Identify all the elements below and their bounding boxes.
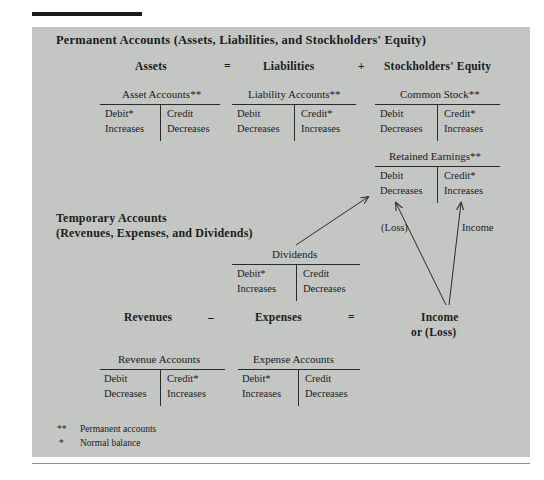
income-or-loss-line1: Income <box>421 311 459 323</box>
retained-earnings-credit-effect: Increases <box>444 185 483 196</box>
dividends-credit-label: Credit <box>303 268 329 279</box>
footnote-mark-normal-balance: * <box>59 438 64 448</box>
asset-accounts-debit-label: Debit* <box>105 108 134 119</box>
revenue-accounts-title: Revenue Accounts <box>118 353 200 365</box>
equation-operator-minus: – <box>208 311 214 323</box>
bottom-rule-decoration <box>32 463 530 464</box>
equation-operator-equals-top: = <box>224 60 231 72</box>
figure-page: Permanent Accounts (Assets, Liabilities,… <box>0 0 544 480</box>
asset-accounts-divider <box>160 105 161 141</box>
asset-accounts-title: Asset Accounts** <box>122 88 201 100</box>
retained-earnings-divider <box>437 167 438 203</box>
retained-earnings-debit-effect: Decreases <box>380 185 423 196</box>
flow-label-income: Income <box>462 222 494 233</box>
equation-term-stockholders-equity: Stockholders' Equity <box>384 60 491 72</box>
temporary-accounts-heading-line2: (Revenues, Expenses, and Dividends) <box>56 226 253 241</box>
common-stock-credit-label: Credit* <box>444 108 476 119</box>
expense-accounts-credit-effect: Decreases <box>305 388 348 399</box>
equation-term-assets: Assets <box>135 60 167 72</box>
expense-accounts-divider <box>298 370 299 406</box>
permanent-accounts-heading: Permanent Accounts (Assets, Liabilities,… <box>56 33 426 48</box>
retained-earnings-title: Retained Earnings** <box>389 150 481 162</box>
footnote-mark-permanent: ** <box>57 424 67 434</box>
liability-accounts-debit-effect: Decreases <box>237 123 280 134</box>
expense-accounts-title: Expense Accounts <box>253 353 334 365</box>
dividends-title: Dividends <box>272 248 317 260</box>
expense-accounts-debit-label: Debit* <box>242 373 271 384</box>
expense-accounts-credit-label: Credit <box>305 373 331 384</box>
retained-earnings-credit-label: Credit* <box>444 170 476 181</box>
liability-accounts-credit-effect: Increases <box>301 123 340 134</box>
revenue-accounts-top-rule <box>100 369 225 370</box>
liability-accounts-title: Liability Accounts** <box>248 88 341 100</box>
dividends-credit-effect: Decreases <box>303 283 346 294</box>
income-or-loss-line2: or (Loss) <box>411 326 456 338</box>
common-stock-debit-effect: Decreases <box>380 123 423 134</box>
dividends-divider <box>296 265 297 301</box>
retained-earnings-debit-label: Debit <box>380 170 403 181</box>
asset-accounts-credit-label: Credit <box>167 108 193 119</box>
revenue-accounts-debit-label: Debit <box>104 373 127 384</box>
equation-term-revenues: Revenues <box>124 311 172 323</box>
dividends-debit-label: Debit* <box>237 268 266 279</box>
liability-accounts-credit-label: Credit* <box>301 108 333 119</box>
equation-operator-plus: + <box>358 60 365 72</box>
equation-operator-equals-bottom: = <box>348 311 355 323</box>
revenue-accounts-credit-label: Credit* <box>167 373 199 384</box>
asset-accounts-debit-effect: Increases <box>105 123 144 134</box>
expense-accounts-top-rule <box>238 369 360 370</box>
equation-term-expenses: Expenses <box>255 311 302 323</box>
liability-accounts-divider <box>294 105 295 141</box>
expense-accounts-debit-effect: Increases <box>242 388 281 399</box>
liability-accounts-debit-label: Debit <box>237 108 260 119</box>
top-rule-decoration <box>32 12 142 16</box>
dividends-debit-effect: Increases <box>237 283 276 294</box>
temporary-accounts-heading-line1: Temporary Accounts <box>56 211 167 226</box>
revenue-accounts-credit-effect: Increases <box>167 388 206 399</box>
flow-label-loss: (Loss) <box>381 222 408 233</box>
common-stock-divider <box>437 105 438 141</box>
asset-accounts-credit-effect: Decreases <box>167 123 210 134</box>
common-stock-credit-effect: Increases <box>444 123 483 134</box>
footnote-text-permanent: Permanent accounts <box>80 424 156 434</box>
common-stock-debit-label: Debit <box>380 108 403 119</box>
common-stock-title: Common Stock** <box>400 88 480 100</box>
equation-term-liabilities: Liabilities <box>263 60 314 72</box>
revenue-accounts-divider <box>160 370 161 406</box>
footnote-text-normal-balance: Normal balance <box>80 438 140 448</box>
revenue-accounts-debit-effect: Decreases <box>104 388 147 399</box>
